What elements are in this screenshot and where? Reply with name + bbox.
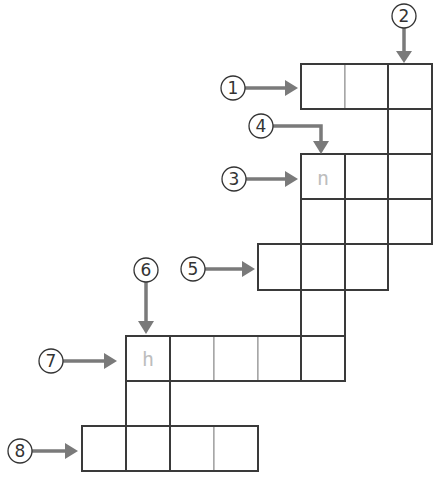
clue-number-1: 1 xyxy=(228,78,239,98)
clue-8-marker: 8 xyxy=(8,439,78,463)
crossword-grid: n h 1 2 4 3 5 6 xyxy=(0,0,437,481)
cell-7-2[interactable] xyxy=(170,336,214,381)
cell-1-2[interactable] xyxy=(345,64,388,109)
cell-5-1[interactable] xyxy=(258,244,301,290)
cell-5-2[interactable] xyxy=(301,244,345,290)
cell-8-3[interactable] xyxy=(170,426,214,471)
clue-6-marker: 6 xyxy=(134,258,158,334)
cell-3-3[interactable] xyxy=(388,154,432,199)
cell-3-2[interactable] xyxy=(345,154,388,199)
arrow-right-down-icon xyxy=(273,126,321,142)
arrowhead-icon xyxy=(313,141,329,154)
clue-5-marker: 5 xyxy=(181,257,255,281)
arrowhead-icon xyxy=(104,353,117,369)
clue-number-5: 5 xyxy=(188,259,199,279)
arrowhead-icon xyxy=(396,51,412,63)
cell-8-4[interactable] xyxy=(214,426,258,471)
clue-number-2: 2 xyxy=(399,6,410,26)
hint-letter-n: n xyxy=(317,166,329,190)
cell-1-3[interactable] xyxy=(388,64,432,109)
clue-number-8: 8 xyxy=(15,441,26,461)
cell-blank-row3[interactable] xyxy=(345,199,388,244)
cell-5-3[interactable] xyxy=(345,244,388,290)
clue-1-marker: 1 xyxy=(221,76,298,100)
clue-number-6: 6 xyxy=(141,260,152,280)
clue-4-marker: 4 xyxy=(249,114,329,154)
hint-letter-h: h xyxy=(142,347,154,371)
cell-7-4[interactable] xyxy=(258,336,301,381)
cell-8-1[interactable] xyxy=(82,426,126,471)
clue-number-3: 3 xyxy=(229,169,240,189)
clue-2-marker: 2 xyxy=(392,4,416,63)
cell-8-2[interactable] xyxy=(126,426,170,471)
cell-6-2[interactable] xyxy=(126,381,170,426)
cell-1-1[interactable] xyxy=(301,64,345,109)
clue-number-4: 4 xyxy=(256,116,267,136)
cell-4-2[interactable] xyxy=(301,199,345,244)
cell-2-2[interactable] xyxy=(388,109,432,154)
cell-4-5[interactable] xyxy=(301,290,345,336)
clue-number-7: 7 xyxy=(46,351,57,371)
arrowhead-icon xyxy=(65,443,78,459)
arrowhead-icon xyxy=(285,80,298,96)
arrowhead-icon xyxy=(138,321,154,334)
arrowhead-icon xyxy=(285,171,298,187)
arrowhead-icon xyxy=(242,261,255,277)
clue-3-marker: 3 xyxy=(222,167,298,191)
cell-7-3[interactable] xyxy=(214,336,258,381)
cell-2-4[interactable] xyxy=(388,199,432,244)
clue-7-marker: 7 xyxy=(39,349,117,373)
cell-7-5[interactable] xyxy=(301,336,345,381)
